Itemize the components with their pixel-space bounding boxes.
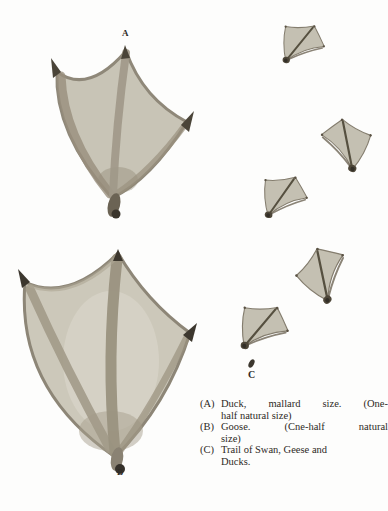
figure-label-b: B: [117, 467, 124, 477]
caption-marker-b: (B): [200, 421, 221, 433]
caption-line: half natural size): [221, 410, 388, 422]
caption-entry-b: (B) Goose. (Cne-half natural size): [200, 421, 388, 444]
figure-label-a: A: [122, 28, 129, 38]
caption-line: Trail of Swan, Geese and: [221, 444, 388, 456]
trail-footprint-3: [260, 172, 310, 226]
goose-footprint-illustration-b: [16, 249, 198, 477]
trail-footprint-2: [309, 111, 377, 180]
duck-footprint-illustration-a: [48, 45, 196, 220]
scanned-page: A: [0, 0, 388, 511]
caption-text-c: Trail of Swan, Geese and Ducks.: [221, 444, 388, 467]
trail-speck: [247, 358, 256, 368]
figure-label-c: C: [248, 369, 256, 380]
caption-text-b: Goose. (Cne-half natural size): [221, 421, 388, 444]
figure-caption: (A) Duck, mallard size. (One- half natur…: [200, 398, 388, 468]
caption-line: Duck, mallard size. (One-: [221, 398, 388, 410]
caption-line: Goose. (Cne-half natural: [221, 421, 388, 433]
caption-entry-c: (C) Trail of Swan, Geese and Ducks.: [200, 444, 388, 467]
caption-line: Ducks.: [221, 456, 388, 468]
caption-line: size): [221, 433, 388, 445]
caption-marker-c: (C): [200, 444, 221, 456]
trail-footprint-1: [278, 19, 329, 74]
caption-text-a: Duck, mallard size. (One- half natural s…: [221, 398, 388, 421]
trail-footprint-4: [288, 235, 366, 313]
trail-footprint-5: [235, 300, 293, 360]
caption-entry-a: (A) Duck, mallard size. (One- half natur…: [200, 398, 388, 421]
caption-marker-a: (A): [200, 398, 221, 410]
